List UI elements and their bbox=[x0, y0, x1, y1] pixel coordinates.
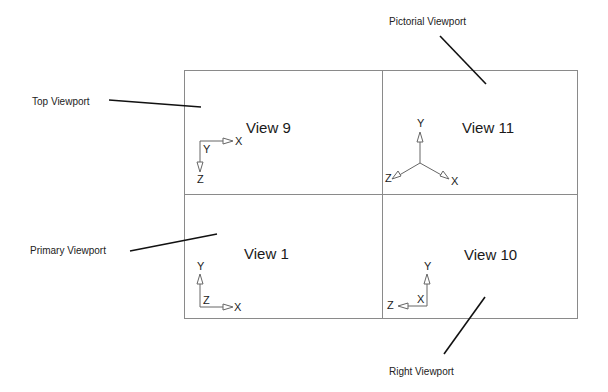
callout-top-viewport: Top Viewport bbox=[32, 96, 90, 107]
pictorial-view-triad-icon bbox=[392, 132, 449, 179]
pictorial-axis-x-label: X bbox=[451, 176, 458, 187]
view-title-primary: View 1 bbox=[244, 245, 289, 262]
leader-top bbox=[109, 100, 201, 107]
callout-right-viewport: Right Viewport bbox=[389, 366, 454, 377]
viewport-diagram bbox=[0, 0, 608, 392]
pictorial-axis-z-label: Z bbox=[385, 173, 392, 184]
right-axis-y-label: Y bbox=[424, 261, 431, 272]
top-axis-x-label: X bbox=[235, 136, 242, 147]
primary-axis-y-label: Y bbox=[197, 261, 204, 272]
top-axis-y-label: Y bbox=[203, 144, 210, 155]
callout-pictorial-viewport: Pictorial Viewport bbox=[389, 16, 466, 27]
leader-pictorial bbox=[440, 36, 486, 84]
view-title-top: View 9 bbox=[246, 119, 291, 136]
right-view-triad-icon bbox=[398, 274, 430, 309]
viewport-frame bbox=[185, 71, 578, 319]
right-axis-z-label: Z bbox=[387, 300, 394, 311]
leader-right bbox=[444, 297, 485, 354]
callout-primary-viewport: Primary Viewport bbox=[30, 245, 106, 256]
leader-primary bbox=[130, 234, 217, 251]
primary-axis-x-label: X bbox=[234, 302, 241, 313]
top-axis-z-label: Z bbox=[197, 174, 204, 185]
right-axis-x-label: X bbox=[417, 294, 424, 305]
pictorial-axis-y-label: Y bbox=[417, 118, 424, 129]
view-title-right: View 10 bbox=[464, 246, 517, 263]
primary-axis-z-label: Z bbox=[203, 295, 210, 306]
view-title-pictorial: View 11 bbox=[462, 119, 514, 136]
